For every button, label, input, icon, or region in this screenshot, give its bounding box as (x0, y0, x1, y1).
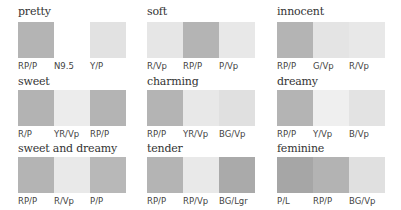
swatch-row (277, 22, 385, 58)
swatch-label: BG/Vp (349, 196, 385, 206)
swatch-label-row: RP/PY/VpB/Vp (277, 129, 385, 139)
swatch-label: Y/P (90, 61, 126, 71)
swatch-row (277, 90, 385, 126)
swatch-label-row: RP/PG/VpR/Vp (277, 61, 385, 71)
palette-title: charming (147, 75, 199, 88)
swatch-label: RP/P (147, 196, 183, 206)
color-swatch (183, 22, 219, 58)
swatch-label: B/Vp (349, 129, 385, 139)
palette-title: sweet (18, 75, 50, 88)
color-swatch (349, 157, 385, 193)
swatch-label-row: P/LRP/PBG/Vp (277, 196, 385, 206)
swatch-row (277, 157, 385, 193)
color-swatch (277, 157, 313, 193)
swatch-label: P/L (277, 196, 313, 206)
color-swatch (219, 157, 255, 193)
swatch-label: RP/Vp (183, 196, 219, 206)
swatch-label-row: RP/PRP/VpBG/Lgr (147, 196, 255, 206)
color-swatch (183, 157, 219, 193)
swatch-label: R/P (18, 129, 54, 139)
swatch-label: G/Vp (313, 61, 349, 71)
color-swatch (349, 90, 385, 126)
color-swatch (90, 157, 126, 193)
color-swatch (90, 90, 126, 126)
swatch-label: RP/P (18, 61, 54, 71)
swatch-row (18, 157, 126, 193)
color-swatch (349, 22, 385, 58)
color-swatch (219, 90, 255, 126)
swatch-label: P/P (90, 196, 126, 206)
color-swatch (18, 22, 54, 58)
swatch-label: YR/Vp (183, 129, 219, 139)
color-swatch (313, 90, 349, 126)
palette-title: soft (147, 5, 167, 18)
swatch-label: BG/Lgr (219, 196, 255, 206)
swatch-label: R/Vp (54, 196, 90, 206)
color-swatch (147, 90, 183, 126)
palette-title: pretty (18, 5, 51, 18)
color-swatch (147, 22, 183, 58)
swatch-label: RP/P (147, 129, 183, 139)
color-swatch (147, 157, 183, 193)
swatch-label: P/Vp (219, 61, 255, 71)
palette-title: tender (147, 142, 183, 155)
swatch-label-row: RP/PYR/VpBG/Vp (147, 129, 255, 139)
swatch-label: R/Vp (147, 61, 183, 71)
swatch-label: RP/P (90, 129, 126, 139)
palette-title: innocent (277, 5, 324, 18)
swatch-label-row: R/PYR/VpRP/P (18, 129, 126, 139)
color-swatch (277, 90, 313, 126)
swatch-row (147, 22, 255, 58)
swatch-label: YR/Vp (54, 129, 90, 139)
swatch-row (18, 90, 126, 126)
color-swatch (18, 90, 54, 126)
swatch-label-row: RP/PR/VpP/P (18, 196, 126, 206)
swatch-row (147, 157, 255, 193)
color-swatch (183, 90, 219, 126)
swatch-label: Y/Vp (313, 129, 349, 139)
color-swatch (313, 157, 349, 193)
palette-title: feminine (277, 142, 324, 155)
swatch-label: RP/P (313, 196, 349, 206)
swatch-label-row: R/VpRP/PP/Vp (147, 61, 255, 71)
color-swatch (54, 22, 90, 58)
swatch-label: R/Vp (349, 61, 385, 71)
swatch-label: RP/P (18, 196, 54, 206)
color-swatch (219, 22, 255, 58)
color-swatch (277, 22, 313, 58)
color-swatch (54, 90, 90, 126)
color-swatch (18, 157, 54, 193)
swatch-label: RP/P (277, 129, 313, 139)
swatch-row (18, 22, 126, 58)
swatch-label: N9.5 (54, 61, 90, 71)
swatch-label-row: RP/PN9.5Y/P (18, 61, 126, 71)
swatch-label: RP/P (183, 61, 219, 71)
color-swatch (313, 22, 349, 58)
palette-title: sweet and dreamy (18, 142, 117, 155)
palette-title: dreamy (277, 75, 318, 88)
swatch-label: BG/Vp (219, 129, 255, 139)
color-swatch (90, 22, 126, 58)
swatch-label: RP/P (277, 61, 313, 71)
swatch-row (147, 90, 255, 126)
color-swatch (54, 157, 90, 193)
